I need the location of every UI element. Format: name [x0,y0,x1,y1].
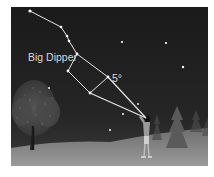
scene-illustration [11,7,208,166]
angle-label: 5° [112,73,122,84]
big-dipper-label: Big Dipper [28,52,77,63]
night-sky-scene: Big Dipper 5° [11,7,208,166]
